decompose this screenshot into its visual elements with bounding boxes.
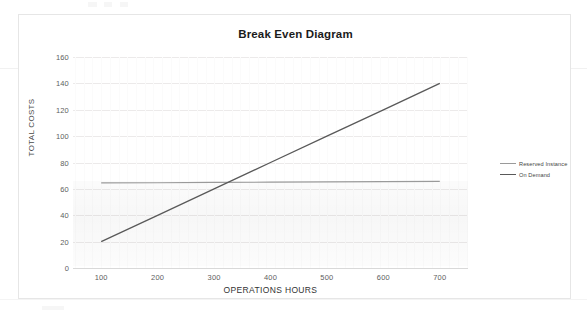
y-axis-tick-label: 60: [29, 184, 69, 193]
legend-item[interactable]: Reserved Instance: [500, 158, 570, 169]
y-axis-tick-labels: 020406080100120140160: [23, 57, 69, 268]
x-axis-tick-label: 200: [138, 273, 178, 282]
y-axis-tick-label: 160: [29, 53, 69, 62]
series-line-on-demand: [101, 83, 440, 241]
y-axis-tick-label: 80: [29, 158, 69, 167]
legend-color-swatch: [500, 163, 516, 164]
x-axis-tick-label: 100: [81, 273, 121, 282]
chart-container: Break Even Diagram TOTAL COSTS 020406080…: [18, 14, 571, 299]
y-axis-tick-label: 120: [29, 105, 69, 114]
x-axis-tick-label: 500: [307, 273, 347, 282]
y-axis-tick-label: 40: [29, 211, 69, 220]
plot-area: [73, 57, 468, 268]
scan-artifact-line-bottom: [0, 299, 587, 300]
legend-item-label: On Demand: [519, 172, 550, 178]
y-axis-tick-label: 0: [29, 264, 69, 273]
x-axis-tick-label: 700: [420, 273, 460, 282]
data-series-layer: [73, 57, 468, 268]
scan-speck-d: [42, 306, 64, 310]
chart-title: Break Even Diagram: [19, 28, 572, 40]
y-axis-tick-label: 100: [29, 132, 69, 141]
legend-item-label: Reserved Instance: [519, 161, 567, 167]
x-axis-title: OPERATIONS HOURS: [73, 285, 468, 295]
x-axis-tick-label: 400: [251, 273, 291, 282]
gridline: [73, 268, 468, 269]
scan-speck-b: [104, 2, 112, 7]
legend-color-swatch: [500, 174, 516, 176]
y-axis-tick-label: 140: [29, 79, 69, 88]
x-axis-tick-labels: 100200300400500600700: [73, 273, 468, 285]
chart-legend: Reserved InstanceOn Demand: [500, 158, 570, 180]
series-line-reserved-instance: [101, 181, 440, 183]
x-axis-tick-label: 600: [363, 273, 403, 282]
legend-item[interactable]: On Demand: [500, 169, 570, 180]
scan-speck-c: [120, 2, 128, 7]
y-axis-tick-label: 20: [29, 237, 69, 246]
x-axis-tick-label: 300: [194, 273, 234, 282]
scan-speck-a: [88, 2, 97, 7]
